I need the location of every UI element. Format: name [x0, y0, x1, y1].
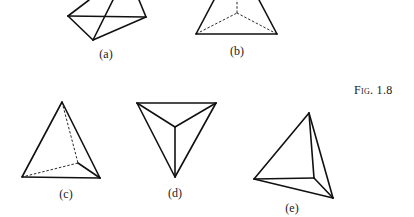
tetrahedron-figure: [0, 0, 414, 217]
solid-edge: [68, 0, 89, 16]
solid-edge: [93, 0, 113, 40]
solid-edge: [68, 16, 93, 40]
solid-edge: [22, 177, 100, 178]
tetrahedron-a: [68, 0, 146, 40]
solid-edge: [254, 113, 309, 179]
tetrahedron-c: [22, 102, 100, 178]
tetrahedron-b: [196, 0, 277, 34]
solid-edge: [62, 102, 100, 178]
hidden-edge: [62, 102, 78, 163]
solid-edge: [254, 178, 314, 179]
solid-edge: [93, 17, 146, 40]
label-e: (e): [285, 201, 298, 216]
hidden-edge: [22, 163, 78, 177]
label-b: (b): [230, 44, 244, 59]
label-a: (a): [99, 47, 112, 62]
figure-caption: Fig. 1.8: [354, 83, 393, 98]
solid-edge: [68, 16, 146, 17]
solid-edge: [139, 0, 146, 17]
label-d: (d): [168, 186, 182, 201]
label-c: (c): [59, 187, 72, 202]
tetrahedron-d: [137, 103, 216, 177]
solid-edge: [254, 179, 333, 198]
tetrahedron-e: [254, 113, 333, 198]
solid-edge: [22, 102, 62, 177]
